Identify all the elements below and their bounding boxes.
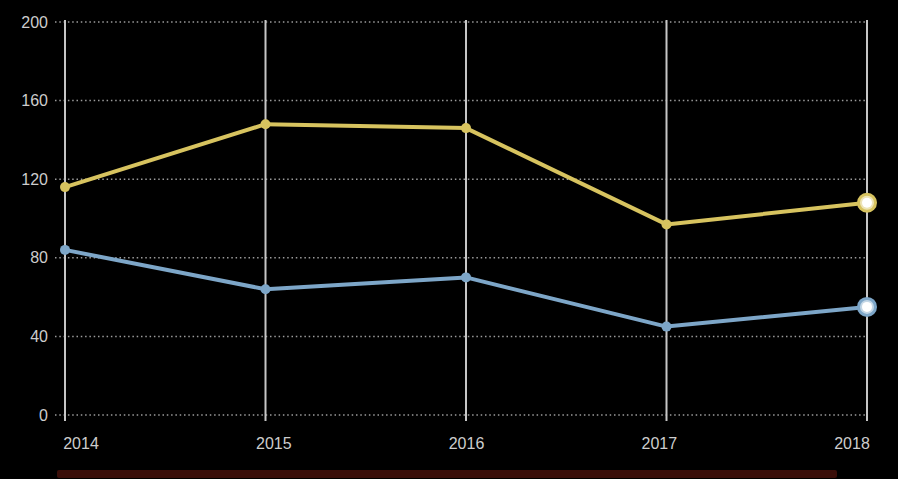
gold-series-endpoint-center <box>862 198 872 208</box>
gold-series-point <box>261 119 271 129</box>
gold-series-point <box>461 123 471 133</box>
y-tick-label: 40 <box>30 328 48 345</box>
bottom-red-strip <box>57 470 837 478</box>
blue-series-point <box>662 322 672 332</box>
x-tick-label: 2017 <box>642 435 678 452</box>
gold-series-point <box>662 219 672 229</box>
y-tick-label: 200 <box>21 14 48 31</box>
y-tick-label: 120 <box>21 171 48 188</box>
y-tick-label: 80 <box>30 249 48 266</box>
x-tick-label: 2015 <box>256 435 292 452</box>
chart-plot-area: 0408012016020020142015201620172018 <box>0 0 898 479</box>
x-tick-label: 2014 <box>63 435 99 452</box>
y-tick-label: 160 <box>21 92 48 109</box>
line-chart: 0408012016020020142015201620172018 <box>0 0 898 479</box>
blue-series-point <box>60 245 70 255</box>
blue-series-point <box>261 284 271 294</box>
blue-series-point <box>461 272 471 282</box>
x-tick-label: 2018 <box>834 435 870 452</box>
y-tick-label: 0 <box>39 407 48 424</box>
gold-series-point <box>60 182 70 192</box>
x-tick-label: 2016 <box>449 435 485 452</box>
blue-series-endpoint-center <box>862 302 872 312</box>
